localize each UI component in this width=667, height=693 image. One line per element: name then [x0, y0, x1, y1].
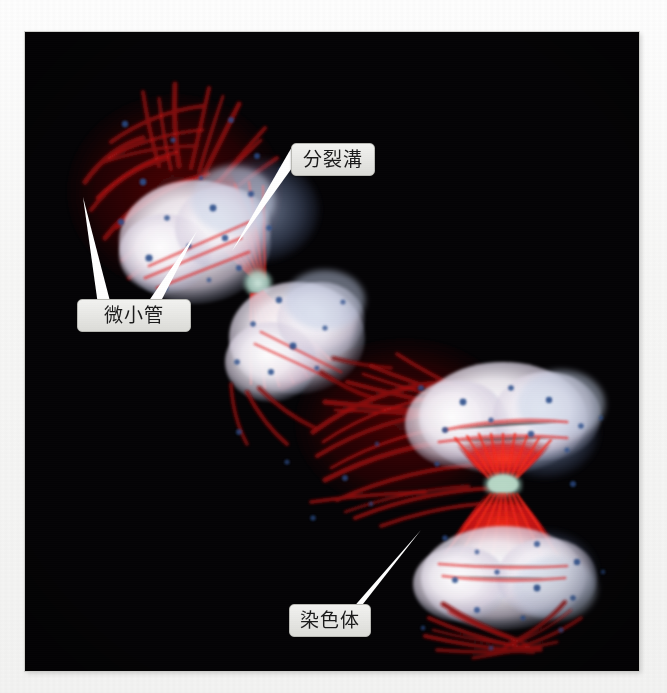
micrograph-photo [25, 32, 639, 671]
label-microtubules: 微小管 [77, 299, 191, 332]
micrograph-canvas [25, 32, 639, 671]
label-chromosomes: 染色体 [289, 604, 371, 637]
page-background: 分裂溝 微小管 染色体 [0, 0, 667, 693]
label-cleavage-furrow: 分裂溝 [291, 143, 375, 176]
